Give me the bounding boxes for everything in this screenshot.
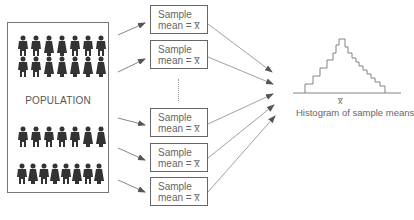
histogram-x-label: x̅ [338,96,343,106]
population-to-sample-arrows [118,23,145,192]
histogram-bars [305,39,385,93]
sample-to-histogram-arrows [208,24,275,192]
histogram-caption: Histogram of sample means [296,107,414,118]
histogram [293,39,401,93]
